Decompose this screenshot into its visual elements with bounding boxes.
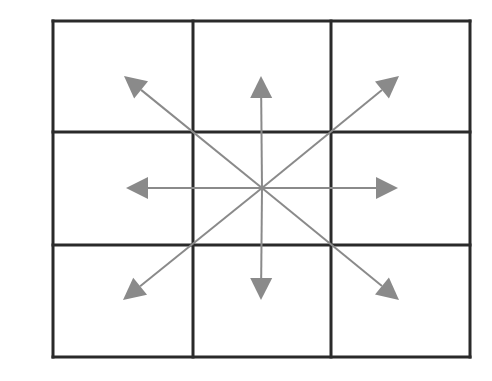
direction-grid-diagram	[0, 0, 492, 381]
direction-arrows	[123, 76, 399, 300]
